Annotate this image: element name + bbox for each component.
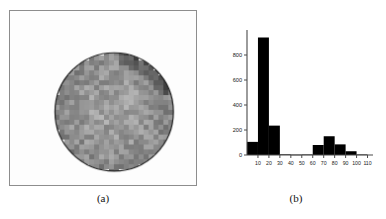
y-axis-tick-label: 800 — [233, 52, 242, 58]
y-axis-tick-label: 0 — [239, 152, 242, 158]
x-axis-tick-label: 50 — [299, 160, 305, 166]
caption-panel-b: (b) — [215, 192, 377, 204]
x-axis-tick-label: 110 — [363, 160, 371, 166]
histogram-bar — [247, 142, 258, 155]
x-axis-tick-label: 70 — [321, 160, 327, 166]
histogram-bar — [335, 144, 346, 155]
x-axis-ticks: 102030405060708090100110 — [255, 155, 372, 166]
grayscale-circle-image — [10, 11, 196, 185]
x-axis-tick-label: 40 — [288, 160, 294, 166]
x-axis-tick-label: 60 — [310, 160, 316, 166]
y-axis-tick-label: 200 — [233, 127, 242, 133]
y-axis-tick-label: 400 — [233, 102, 242, 108]
histogram-bar — [346, 151, 357, 155]
histogram-bar — [313, 145, 324, 155]
y-axis-tick-label: 600 — [233, 77, 242, 83]
histogram-svg: 0200400600800 102030405060708090100110 — [215, 18, 377, 168]
panel-b-histogram: 0200400600800 102030405060708090100110 — [215, 18, 377, 168]
histogram-bar — [324, 136, 335, 155]
x-axis-tick-label: 100 — [352, 160, 361, 166]
x-axis-tick-label: 90 — [343, 160, 349, 166]
histogram-bar — [269, 126, 280, 155]
x-axis-tick-label: 80 — [332, 160, 338, 166]
histogram-bar — [258, 38, 269, 156]
y-axis-ticks: 0200400600800 — [233, 52, 247, 158]
x-axis-tick-label: 10 — [255, 160, 261, 166]
caption-panel-a: (a) — [9, 192, 197, 204]
x-axis-tick-label: 30 — [277, 160, 283, 166]
panel-a-image-frame — [9, 10, 197, 186]
histogram-bars — [247, 38, 368, 156]
figure-container: (a) 0200400600800 1020304050607080901001… — [0, 0, 386, 219]
x-axis-tick-label: 20 — [266, 160, 272, 166]
